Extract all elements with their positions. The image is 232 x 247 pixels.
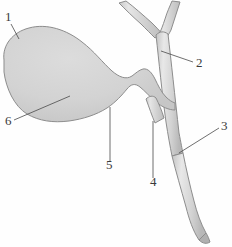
label-1: 1 (5, 9, 12, 24)
label-4: 4 (150, 174, 157, 189)
biliary-tree-group (119, 1, 210, 243)
left-hepatic-duct-shape (119, 1, 162, 38)
label-6: 6 (5, 113, 12, 128)
anatomical-figure: 1 2 3 4 5 6 (0, 0, 232, 247)
label-3: 3 (221, 118, 228, 133)
leader-line-3 (179, 128, 219, 153)
common-bile-duct-shape (172, 153, 206, 240)
label-5: 5 (106, 157, 113, 172)
figure-canvas: 1 2 3 4 5 6 (0, 0, 232, 247)
label-2: 2 (196, 55, 203, 70)
gallbladder-group (4, 26, 175, 123)
